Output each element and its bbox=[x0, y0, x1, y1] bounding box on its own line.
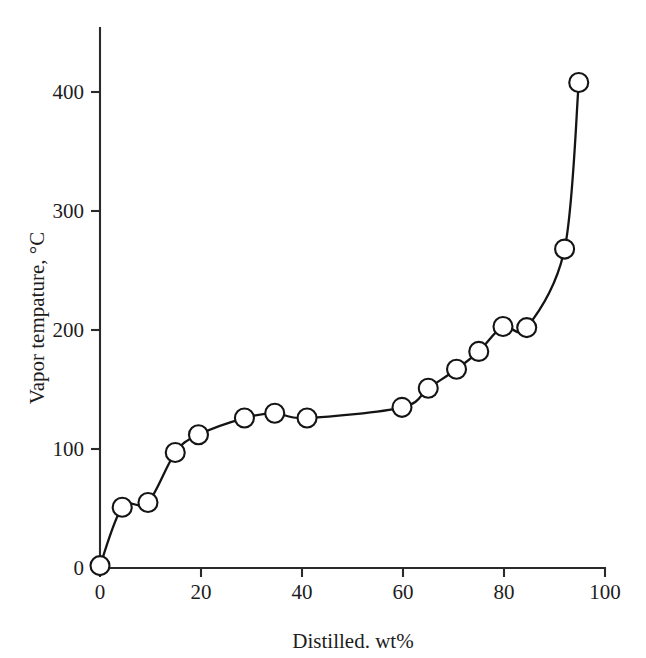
distillation-curve-chart: 020406080100 0100200300400 Distilled. wt… bbox=[0, 0, 646, 658]
data-point-13 bbox=[517, 318, 536, 337]
data-point-7 bbox=[298, 409, 317, 428]
y-tick-label-0: 0 bbox=[74, 556, 85, 580]
x-tick-labels: 020406080100 bbox=[95, 580, 621, 604]
data-point-10 bbox=[447, 360, 466, 379]
data-point-0 bbox=[91, 556, 110, 575]
chart-figure: 020406080100 0100200300400 Distilled. wt… bbox=[0, 0, 646, 658]
data-markers-group bbox=[91, 73, 589, 575]
data-point-14 bbox=[555, 240, 574, 259]
y-tick-label-300: 300 bbox=[53, 199, 85, 223]
data-point-5 bbox=[235, 409, 254, 428]
x-tick-label-60: 60 bbox=[393, 580, 414, 604]
data-point-12 bbox=[493, 317, 512, 336]
x-tick-label-20: 20 bbox=[191, 580, 212, 604]
data-point-2 bbox=[138, 493, 157, 512]
data-point-1 bbox=[113, 498, 132, 517]
y-tick-label-400: 400 bbox=[53, 80, 85, 104]
x-tick-label-0: 0 bbox=[95, 580, 106, 604]
data-point-3 bbox=[166, 443, 185, 462]
x-tick-label-100: 100 bbox=[589, 580, 621, 604]
x-tick-label-80: 80 bbox=[494, 580, 515, 604]
data-point-8 bbox=[392, 398, 411, 417]
x-tick-label-40: 40 bbox=[292, 580, 313, 604]
y-tick-label-100: 100 bbox=[53, 437, 85, 461]
y-axis bbox=[100, 28, 605, 568]
y-tick-label-200: 200 bbox=[53, 318, 85, 342]
data-point-4 bbox=[189, 425, 208, 444]
y-tick-labels: 0100200300400 bbox=[53, 80, 85, 580]
data-point-9 bbox=[419, 379, 438, 398]
data-point-11 bbox=[469, 342, 488, 361]
x-axis-title: Distilled. wt% bbox=[292, 629, 413, 653]
y-axis-title: Vapor tempature, °C bbox=[25, 232, 49, 404]
axes-group bbox=[100, 28, 605, 568]
data-point-6 bbox=[265, 404, 284, 423]
data-point-15 bbox=[569, 73, 588, 92]
